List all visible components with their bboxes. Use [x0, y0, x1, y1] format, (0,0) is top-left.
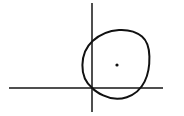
circle-center-dot	[115, 63, 118, 66]
geometry-sketch-canvas: Hand-drawn circle centred in the first q…	[0, 0, 184, 116]
figure-root: Hand-drawn circle centred in the first q…	[0, 0, 184, 116]
